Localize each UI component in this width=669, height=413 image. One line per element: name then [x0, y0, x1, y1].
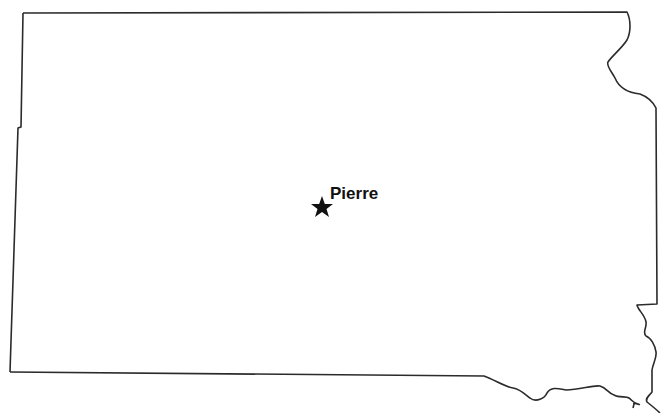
state-outline-west — [10, 13, 23, 372]
city-label-pierre: Pierre — [330, 184, 378, 204]
state-outline — [23, 12, 660, 413]
state-outline-south — [10, 372, 639, 408]
state-map — [0, 0, 669, 413]
